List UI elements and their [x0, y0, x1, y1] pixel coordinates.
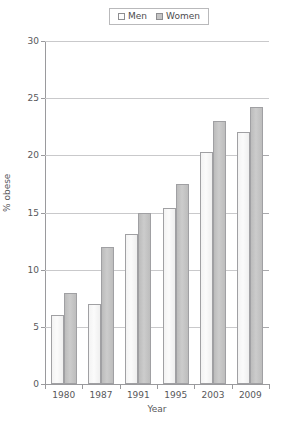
- y-tick-label-20: 20: [28, 151, 39, 160]
- x-tick-label-1991: 1991: [127, 391, 150, 400]
- x-tick-boundary-5: [232, 384, 233, 389]
- bar-women-1980: [64, 293, 77, 384]
- bar-men-1980: [51, 315, 64, 384]
- bar-men-1995: [163, 208, 176, 384]
- x-tick-boundary-1: [82, 384, 83, 389]
- men-swatch-icon: [118, 13, 125, 20]
- bar-women-2009: [250, 107, 263, 384]
- x-tick-boundary-0: [45, 384, 46, 389]
- bar-men-1987: [88, 304, 101, 384]
- y-tick-label-10: 10: [28, 265, 39, 274]
- x-tick-label-1987: 1987: [90, 391, 113, 400]
- y-tick-25: [41, 98, 45, 99]
- x-tick-label-2003: 2003: [202, 391, 225, 400]
- bar-men-1991: [125, 234, 138, 384]
- legend-label-women: Women: [166, 12, 200, 21]
- y-tick-20: [41, 155, 45, 156]
- gridline-25: [45, 98, 269, 99]
- chart-legend: Men Women: [109, 8, 209, 25]
- bar-men-2009: [237, 132, 250, 384]
- bar-women-2003: [213, 121, 226, 384]
- legend-item-men: Men: [118, 12, 147, 21]
- x-tick-label-2009: 2009: [239, 391, 262, 400]
- plot-area: 051015202530 198019871991199520032009: [45, 41, 269, 384]
- y-tick-30: [41, 41, 45, 42]
- x-tick-boundary-6: [269, 384, 270, 389]
- gridline-30: [45, 41, 269, 42]
- x-tick-label-1995: 1995: [164, 391, 187, 400]
- y-tick-5: [41, 327, 45, 328]
- y-tick-label-25: 25: [28, 94, 39, 103]
- y-tick-label-15: 15: [28, 208, 39, 217]
- women-swatch-icon: [156, 13, 163, 20]
- y-tick-label-5: 5: [33, 322, 39, 331]
- x-tick-boundary-3: [157, 384, 158, 389]
- bar-women-1987: [101, 247, 114, 384]
- x-tick-boundary-4: [194, 384, 195, 389]
- bar-women-1995: [176, 184, 189, 384]
- bar-men-2003: [200, 152, 213, 384]
- y-axis-title: % obese: [2, 174, 12, 212]
- obesity-bar-chart: Men Women 051015202530 19801987199119952…: [0, 0, 286, 427]
- y-tick-15: [41, 213, 45, 214]
- x-tick-boundary-2: [120, 384, 121, 389]
- y-tick-label-0: 0: [33, 380, 39, 389]
- bar-women-1991: [138, 213, 151, 385]
- legend-item-women: Women: [156, 12, 200, 21]
- y-tick-label-30: 30: [28, 37, 39, 46]
- legend-label-men: Men: [128, 12, 147, 21]
- y-tick-10: [41, 270, 45, 271]
- x-axis-title: Year: [45, 404, 269, 414]
- x-tick-label-1980: 1980: [52, 391, 75, 400]
